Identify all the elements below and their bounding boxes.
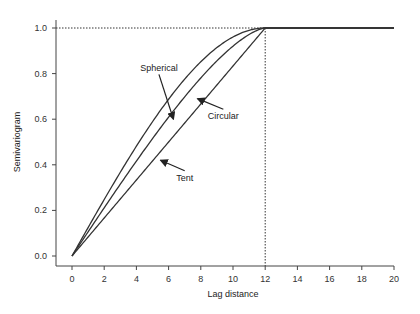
x-ticks: 02468101214161820 [69, 266, 399, 284]
x-tick-label: 16 [325, 274, 335, 284]
x-tick-label: 14 [292, 274, 302, 284]
circular-curve [72, 28, 394, 256]
semivariogram-chart: 0.00.20.40.60.81.0 02468101214161820 Lag… [0, 0, 420, 314]
x-tick-label: 4 [134, 274, 139, 284]
x-axis-title: Lag distance [207, 289, 258, 299]
x-tick-label: 18 [357, 274, 367, 284]
spherical-label: Spherical [140, 63, 178, 73]
tent-label: Tent [176, 173, 194, 183]
x-tick-label: 8 [198, 274, 203, 284]
y-tick-label: 0.8 [34, 69, 47, 79]
x-tick-label: 10 [228, 274, 238, 284]
y-tick-label: 0.2 [34, 205, 47, 215]
axes [56, 20, 394, 266]
annotations: SphericalCircularTent [140, 63, 239, 182]
circular-label: Circular [208, 111, 239, 121]
y-tick-label: 0.0 [34, 251, 47, 261]
plot-lines [72, 28, 394, 256]
tent-arrow-icon [161, 160, 185, 171]
y-tick-label: 0.6 [34, 114, 47, 124]
y-ticks: 0.00.20.40.60.81.0 [34, 23, 56, 261]
x-tick-label: 6 [166, 274, 171, 284]
tent-curve [72, 28, 394, 256]
y-axis-title: Semivariogram [12, 112, 22, 173]
x-tick-label: 12 [260, 274, 270, 284]
spherical-curve [72, 28, 394, 256]
y-tick-label: 0.4 [34, 160, 47, 170]
x-tick-label: 2 [102, 274, 107, 284]
x-tick-label: 0 [69, 274, 74, 284]
x-tick-label: 20 [389, 274, 399, 284]
y-tick-label: 1.0 [34, 23, 47, 33]
